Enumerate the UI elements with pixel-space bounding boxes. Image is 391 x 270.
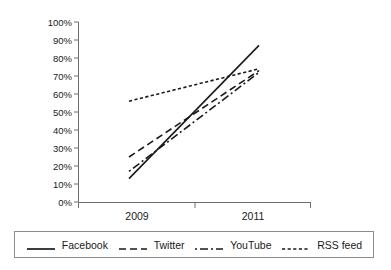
- y-tick-label: 30%: [53, 143, 73, 154]
- y-axis-tick-labels: 100% 90% 80% 70% 60% 50% 40% 30% 20% 10%…: [48, 17, 73, 208]
- legend-entry-twitter: Twitter: [118, 239, 185, 251]
- y-tick-label: 80%: [53, 53, 73, 64]
- legend-label-youtube: YouTube: [230, 239, 271, 251]
- legend-entry-facebook: Facebook: [26, 239, 108, 251]
- x-tick-label: 2011: [242, 210, 265, 222]
- legend-swatch-twitter-icon: [118, 240, 148, 250]
- chart-legend: Facebook Twitter YouTube: [14, 231, 374, 258]
- chart-canvas: 100% 90% 80% 70% 60% 50% 40% 30% 20% 10%…: [0, 0, 391, 225]
- y-tick-label: 40%: [53, 125, 73, 136]
- series-line-rss-feed: [129, 69, 259, 101]
- x-axis-tick-labels: 2009 2011: [125, 210, 264, 222]
- series-line-youtube: [129, 72, 259, 171]
- legend-label-rss-feed: RSS feed: [317, 239, 362, 251]
- y-axis: [74, 22, 79, 202]
- y-tick-label: 50%: [53, 107, 73, 118]
- legend-swatch-rss-feed-icon: [281, 240, 311, 250]
- y-tick-label: 0%: [58, 197, 72, 208]
- legend-entry-youtube: YouTube: [194, 239, 271, 251]
- y-tick-label: 10%: [53, 179, 73, 190]
- series-lines: [129, 45, 259, 178]
- legend-label-twitter: Twitter: [154, 239, 185, 251]
- series-line-facebook: [129, 45, 259, 178]
- y-tick-label: 70%: [53, 71, 73, 82]
- y-tick-label: 60%: [53, 89, 73, 100]
- plot-area: 100% 90% 80% 70% 60% 50% 40% 30% 20% 10%…: [0, 0, 391, 225]
- legend-swatch-facebook-icon: [26, 240, 56, 250]
- y-tick-label: 20%: [53, 161, 73, 172]
- x-tick-label: 2009: [125, 210, 149, 222]
- legend-swatch-youtube-icon: [194, 240, 224, 250]
- x-axis: [79, 203, 312, 209]
- y-tick-label: 90%: [53, 35, 73, 46]
- line-chart: 100% 90% 80% 70% 60% 50% 40% 30% 20% 10%…: [0, 0, 391, 270]
- series-line-twitter: [129, 71, 259, 157]
- legend-entry-rss-feed: RSS feed: [281, 239, 362, 251]
- y-tick-label: 100%: [48, 17, 73, 28]
- legend-label-facebook: Facebook: [62, 239, 108, 251]
